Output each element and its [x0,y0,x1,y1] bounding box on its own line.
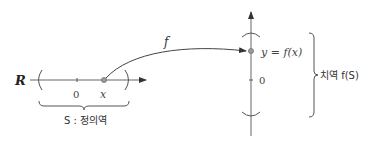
function-label: f [163,35,171,49]
set-r-label: R [14,73,26,88]
domain-brace [39,101,129,110]
range-brace [309,33,318,117]
point-x [101,77,106,82]
origin-label-horizontal: 0 [73,89,79,100]
origin-label-vertical: 0 [259,75,265,86]
range-label: 치역 f(S) [320,70,359,81]
x-label: x [100,88,107,101]
function-mapping-diagram: R 0 x S : 정의역 f y = f(x) 0 치역 f(S) [0,0,368,142]
diagram-canvas: R 0 x S : 정의역 f y = f(x) 0 치역 f(S) [0,0,368,142]
image-point-label: y = f(x) [260,46,302,59]
point-y [248,48,253,53]
domain-label: S : 정의역 [64,115,107,126]
